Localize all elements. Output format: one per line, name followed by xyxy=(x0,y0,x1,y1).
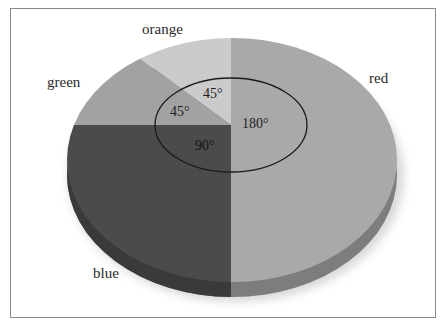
label-blue: blue xyxy=(93,266,119,281)
angle-red: 180° xyxy=(242,117,269,131)
angle-blue: 90° xyxy=(195,139,215,153)
label-green: green xyxy=(47,75,80,90)
angle-green: 45° xyxy=(170,105,190,119)
label-orange: orange xyxy=(142,22,183,37)
label-red: red xyxy=(369,71,388,86)
angle-orange: 45° xyxy=(203,87,223,101)
pie-chart xyxy=(0,0,446,327)
pie-top-face xyxy=(0,0,446,327)
slice-red[interactable] xyxy=(231,0,446,327)
